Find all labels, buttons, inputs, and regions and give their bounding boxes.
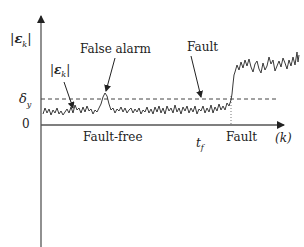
false-alarm-label: False alarm (80, 43, 151, 55)
fault-region-label: Fault (226, 131, 257, 143)
x-axis-label-text: (k) (275, 131, 292, 145)
fault-time-subscript: f (201, 143, 204, 152)
threshold-subscript: y (27, 100, 32, 109)
y-label-bar-right: | (27, 31, 31, 46)
fault-time-label: tf (196, 137, 204, 152)
threshold-label: δy (19, 92, 31, 109)
false-alarm-arrow (106, 58, 115, 91)
diagram-canvas (0, 0, 304, 247)
signal-annotation-arrow (64, 82, 73, 108)
y-axis-label: |εk| (10, 32, 32, 49)
signal-annotation: |εk| (50, 64, 70, 79)
signal-bar-right: | (66, 63, 70, 77)
fault-free-region-label: Fault-free (83, 131, 143, 143)
residual-signal (43, 52, 299, 115)
fault-arrow-label: Fault (187, 41, 218, 53)
x-axis-label: (k) (275, 132, 292, 144)
fault-arrow (191, 56, 201, 97)
threshold-symbol: δ (19, 91, 27, 106)
origin-label: 0 (22, 118, 30, 130)
